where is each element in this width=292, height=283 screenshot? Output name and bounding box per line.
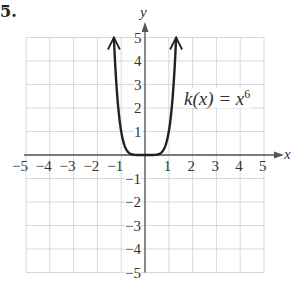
y-tick-label: 4 bbox=[134, 54, 142, 69]
y-tick-label: −1 bbox=[125, 172, 141, 187]
function-label-text: k(x) = x bbox=[184, 88, 244, 109]
y-tick-label: 2 bbox=[134, 101, 142, 116]
y-tick-label: −2 bbox=[125, 195, 141, 210]
y-tick-label: 3 bbox=[134, 78, 142, 93]
y-tick-label: −3 bbox=[125, 219, 141, 234]
y-tick-label: 5 bbox=[134, 31, 142, 46]
x-tick-label: −2 bbox=[83, 159, 99, 174]
x-tick-label: −5 bbox=[12, 159, 28, 174]
axes bbox=[24, 22, 284, 273]
x-tick-label: −4 bbox=[36, 159, 52, 174]
function-label: k(x) = x6 bbox=[183, 88, 251, 108]
x-tick-label: −1 bbox=[107, 159, 123, 174]
x-tick-label: 3 bbox=[211, 159, 219, 174]
function-graph bbox=[0, 0, 292, 283]
y-tick-label: −5 bbox=[125, 266, 141, 281]
y-tick-label: 1 bbox=[134, 125, 142, 140]
y-axis-label: y bbox=[140, 5, 147, 20]
y-tick-label: −4 bbox=[125, 242, 141, 257]
x-tick-label: 1 bbox=[164, 159, 172, 174]
x-tick-label: 2 bbox=[188, 159, 196, 174]
x-tick-label: 5 bbox=[259, 159, 267, 174]
x-tick-label: 4 bbox=[235, 159, 243, 174]
x-axis-label: x bbox=[284, 147, 291, 162]
x-tick-label: −3 bbox=[60, 159, 76, 174]
function-label-exponent: 6 bbox=[244, 87, 250, 101]
